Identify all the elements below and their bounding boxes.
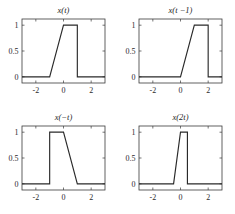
y-tick-label: 0 [132, 180, 136, 189]
y-tick-label: 0 [15, 73, 19, 82]
plot-canvas: x(2t)00.51-202 [117, 107, 234, 214]
axes-frame [22, 19, 105, 83]
signal-trace [139, 25, 222, 77]
x-tick-label: -2 [149, 86, 156, 95]
x-tick-label: 2 [89, 86, 93, 95]
plot-title: x(t −1) [168, 5, 193, 15]
y-tick-label: 1 [132, 21, 136, 30]
x-tick-label: -2 [32, 86, 39, 95]
y-tick-label: 1 [15, 128, 19, 137]
y-tick-label: 0.5 [9, 47, 19, 56]
plot-title: x(2t) [171, 112, 188, 122]
y-tick-label: 0.5 [9, 154, 19, 163]
signal-transformation-figure: x(t)00.51-202x(t −1)00.51-202x(−t)00.51-… [0, 0, 235, 214]
plot-canvas: x(t)00.51-202 [0, 0, 117, 107]
x-tick-label: -2 [149, 193, 156, 202]
y-tick-label: 0.5 [126, 47, 136, 56]
plot-title: x(t) [57, 5, 70, 15]
subplot-3: x(2t)00.51-202 [117, 107, 234, 214]
plot-title: x(−t) [54, 112, 73, 122]
x-tick-label: 0 [62, 193, 66, 202]
x-tick-label: 2 [89, 193, 93, 202]
plot-canvas: x(t −1)00.51-202 [117, 0, 234, 107]
signal-trace [22, 132, 105, 184]
subplot-0: x(t)00.51-202 [0, 0, 117, 107]
y-tick-label: 0.5 [126, 154, 136, 163]
y-tick-label: 0 [132, 73, 136, 82]
y-tick-label: 1 [15, 21, 19, 30]
subplot-1: x(t −1)00.51-202 [117, 0, 234, 107]
y-tick-label: 1 [132, 128, 136, 137]
x-tick-label: 2 [206, 86, 210, 95]
y-tick-label: 0 [15, 180, 19, 189]
subplot-2: x(−t)00.51-202 [0, 107, 117, 214]
x-tick-label: 2 [206, 193, 210, 202]
plot-canvas: x(−t)00.51-202 [0, 107, 117, 214]
x-tick-label: 0 [179, 86, 183, 95]
signal-trace [139, 132, 222, 184]
axes-frame [22, 126, 105, 190]
x-tick-label: 0 [179, 193, 183, 202]
signal-trace [22, 25, 105, 77]
x-tick-label: -2 [32, 193, 39, 202]
axes-frame [139, 19, 222, 83]
x-tick-label: 0 [62, 86, 66, 95]
